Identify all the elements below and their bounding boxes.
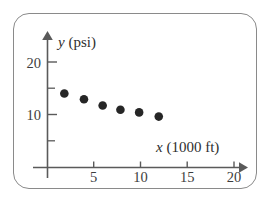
- data-point: [80, 95, 89, 104]
- data-point-group: [60, 89, 163, 121]
- data-point: [135, 108, 144, 117]
- y-axis-title: y (psi): [56, 34, 96, 51]
- y-axis-arrow-icon: [42, 31, 53, 40]
- data-point: [60, 89, 69, 98]
- data-point: [98, 101, 107, 110]
- x-tick-label-5: 5: [90, 169, 97, 185]
- x-tick-label-20: 20: [227, 169, 242, 185]
- data-point: [116, 105, 125, 114]
- figure-root: 5 10 15 20 20 10 y (psi) x (1000 ft): [0, 0, 273, 200]
- scatter-plot: 5 10 15 20 20 10 y (psi) x (1000 ft): [0, 0, 273, 200]
- y-tick-label-10: 10: [27, 107, 42, 123]
- x-axis-title-unit: (1000 ft): [163, 139, 220, 156]
- x-tick-label-15: 15: [180, 169, 195, 185]
- y-axis-title-unit: (psi): [65, 34, 96, 51]
- x-axis-title: x (1000 ft): [155, 139, 219, 156]
- y-axis-title-variable: y: [56, 34, 65, 50]
- x-tick-label-10: 10: [133, 169, 148, 185]
- data-point: [154, 112, 163, 121]
- y-tick-label-20: 20: [27, 55, 42, 71]
